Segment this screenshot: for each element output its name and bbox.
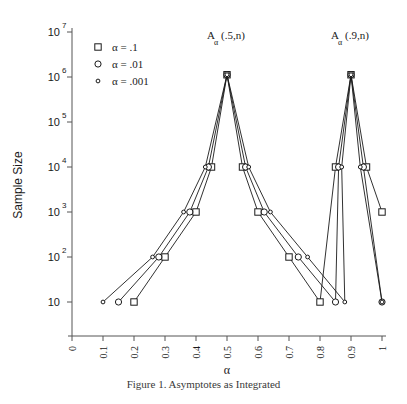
y-tick-label: 10 (48, 161, 60, 173)
data-point (182, 210, 186, 214)
annotation-arg: (.9,n) (345, 29, 369, 42)
annotation-subscript: α (338, 38, 343, 47)
data-point (349, 73, 353, 77)
figure-container: 1010210310410510610700.10.20.30.40.50.60… (0, 0, 407, 404)
y-tick-exponent: 2 (62, 246, 67, 255)
data-point (379, 209, 385, 215)
sample-size-chart: 1010210310410510610700.10.20.30.40.50.60… (0, 0, 407, 404)
data-point (203, 165, 207, 169)
figure-caption: Figure 1. Asymptotes as Integrated (0, 378, 407, 390)
y-tick-exponent: 6 (62, 66, 67, 75)
x-tick-label: 0.6 (253, 346, 264, 359)
data-point (151, 255, 155, 259)
legend-label-1: α = .1 (112, 41, 138, 53)
x-tick-label: 0.7 (284, 346, 295, 359)
x-tick-label: 0.9 (346, 346, 357, 359)
data-point (261, 209, 267, 215)
data-point (255, 209, 261, 215)
legend-marker-2 (95, 61, 101, 67)
y-tick-label: 10 (48, 26, 60, 38)
data-point (156, 254, 162, 260)
y-tick-exponent: 7 (62, 21, 67, 30)
left-peak-label: Aα(.5,n) (207, 29, 245, 47)
y-tick-exponent: 3 (62, 201, 67, 210)
x-tick-label: 0.8 (315, 346, 326, 359)
y-tick-exponent: 5 (62, 111, 67, 120)
series-line (103, 75, 382, 302)
y-tick-exponent: 4 (62, 156, 67, 165)
data-point (343, 300, 347, 304)
data-point (286, 254, 292, 260)
legend-label-3: α = .001 (112, 75, 149, 87)
x-tick-label: 0.3 (160, 346, 171, 359)
legend: α = .1α = .01α = .001 (95, 41, 149, 87)
y-tick-label: 10 (48, 251, 60, 263)
series-3 (101, 73, 384, 304)
y-tick-label: 10 (48, 71, 60, 83)
data-point (269, 210, 273, 214)
x-tick-label: 0.2 (129, 346, 140, 359)
y-tick-label: 10 (48, 116, 60, 128)
series-line (134, 75, 382, 302)
data-point (317, 299, 323, 305)
data-point (162, 254, 168, 260)
data-point (193, 209, 199, 215)
x-tick-label: 0.5 (222, 346, 233, 359)
data-point (187, 209, 193, 215)
data-point (247, 165, 251, 169)
x-axis-title: α (224, 363, 231, 377)
data-point (101, 300, 105, 304)
y-axis-title: Sample Size (11, 151, 25, 219)
data-point (225, 73, 229, 77)
data-point (380, 300, 384, 304)
x-tick-label: 0.1 (98, 346, 109, 359)
data-point (295, 254, 301, 260)
data-point (131, 299, 137, 305)
data-point (340, 165, 344, 169)
legend-marker-1 (95, 44, 101, 50)
x-tick-label: 0.4 (191, 346, 202, 359)
annotation-subscript: α (214, 38, 219, 47)
x-tick-label: 1 (377, 346, 388, 351)
y-tick-label: 10 (48, 206, 60, 218)
right-peak-label: Aα(.9,n) (331, 29, 369, 47)
data-point (306, 255, 310, 259)
data-point (332, 299, 338, 305)
annotation-arg: (.5,n) (221, 29, 245, 42)
data-point (115, 299, 121, 305)
data-point (358, 165, 362, 169)
legend-marker-3 (96, 79, 100, 83)
y-tick-label: 10 (48, 296, 60, 308)
legend-label-2: α = .01 (112, 58, 143, 70)
x-tick-label: 0 (67, 346, 78, 351)
